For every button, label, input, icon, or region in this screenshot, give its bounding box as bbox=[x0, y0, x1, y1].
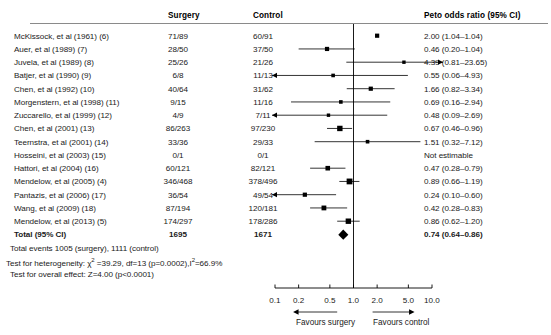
x-axis-tick-label: 10.0 bbox=[424, 296, 440, 305]
study-name: Batjer, et al (1990) (9) bbox=[14, 71, 91, 80]
x-axis-tick-label: 0.5 bbox=[324, 296, 335, 305]
study-row-marker bbox=[299, 47, 355, 51]
heterogeneity-suffix: =66.9% bbox=[195, 259, 222, 268]
study-surgery-count: 60/121 bbox=[152, 164, 204, 173]
study-effect-estimate: 1.66 (0.82–3.34) bbox=[424, 85, 544, 94]
effect-size-square bbox=[325, 166, 330, 171]
study-row-marker bbox=[347, 87, 395, 91]
study-surgery-count: 25/26 bbox=[152, 58, 204, 67]
study-effect-estimate: 0.47 (0.28–0.79) bbox=[424, 164, 544, 173]
study-row-marker bbox=[291, 100, 390, 104]
study-effect-estimate: 0.24 (0.10–0.60) bbox=[424, 191, 544, 200]
study-row-marker bbox=[310, 206, 347, 211]
effect-size-square bbox=[346, 219, 351, 224]
study-name: Chen, et al (1992) (10) bbox=[14, 85, 94, 94]
study-surgery-count: 36/54 bbox=[152, 191, 204, 200]
heterogeneity-prefix: Test for heterogeneity: χ bbox=[6, 259, 91, 268]
axis-caption-favours-control: Favours control bbox=[373, 318, 429, 327]
study-control-count: 97/230 bbox=[237, 124, 289, 133]
effect-size-square bbox=[402, 61, 405, 64]
study-surgery-count: 28/50 bbox=[152, 45, 204, 54]
effect-size-square bbox=[347, 179, 353, 185]
study-row-marker bbox=[272, 73, 408, 78]
effect-size-square bbox=[369, 87, 373, 91]
study-effect-estimate: 0.48 (0.09–2.69) bbox=[424, 111, 544, 120]
x-axis-tick-label: 2.0 bbox=[371, 296, 382, 305]
study-surgery-count: 87/194 bbox=[152, 204, 204, 213]
axis-caption-favours-surgery: Favours surgery bbox=[296, 318, 355, 327]
effect-size-square bbox=[337, 126, 342, 131]
effect-size-square bbox=[325, 47, 329, 51]
study-control-count: 378/496 bbox=[237, 177, 289, 186]
x-axis-tick-label: 0.1 bbox=[269, 296, 280, 305]
column-header-surgery: Surgery bbox=[168, 11, 200, 20]
study-row-marker bbox=[315, 140, 421, 144]
study-effect-estimate: 4.39 (0.81–23.65) bbox=[424, 58, 544, 67]
study-name: Auer, et al (1989) (7) bbox=[14, 45, 87, 54]
heterogeneity-middle: =39.29, df=13 (p=0.0002),I bbox=[95, 259, 192, 268]
arrow-left-icon bbox=[293, 309, 299, 315]
study-surgery-count: 40/64 bbox=[152, 85, 204, 94]
forest-plot-figure: Surgery Control Peto odds ratio (95% CI)… bbox=[0, 0, 551, 335]
study-surgery-count: 0/1 bbox=[152, 151, 204, 160]
study-effect-estimate: 0.42 (0.28–0.83) bbox=[424, 204, 544, 213]
study-effect-estimate: 0.89 (0.66–1.19) bbox=[424, 177, 544, 186]
study-effect-estimate: 0.86 (0.62–1.20) bbox=[424, 217, 544, 226]
effect-size-square bbox=[339, 100, 343, 104]
summary-diamond bbox=[338, 229, 348, 239]
study-row-marker bbox=[310, 166, 345, 171]
study-surgery-count: 9/15 bbox=[152, 98, 204, 107]
study-surgery-count: 346/468 bbox=[152, 177, 204, 186]
effect-size-square bbox=[303, 193, 307, 197]
study-surgery-count: 33/36 bbox=[152, 138, 204, 147]
study-control-count: 37/50 bbox=[237, 45, 289, 54]
study-name: Mendelow, et al (2013) (5) bbox=[14, 217, 107, 226]
header-rule-left bbox=[30, 23, 348, 24]
study-effect-estimate: 2.00 (1.04–1.04) bbox=[424, 32, 544, 41]
effect-size-square bbox=[366, 140, 370, 144]
heterogeneity-test-text: Test for heterogeneity: χ2 =39.29, df=13… bbox=[6, 257, 222, 268]
total-control-count: 1671 bbox=[237, 230, 289, 239]
study-control-count: 7/11 bbox=[237, 111, 289, 120]
study-control-count: 29/33 bbox=[237, 138, 289, 147]
study-surgery-count: 6/8 bbox=[152, 71, 204, 80]
total-label: Total (95% CI) bbox=[14, 230, 66, 239]
study-row-marker bbox=[327, 126, 352, 131]
study-name: Hosseini, et al (2003) (15) bbox=[14, 151, 106, 160]
study-name: Teernstra, et al (2001) (14) bbox=[14, 138, 108, 147]
study-name: Juvela, et al (1989) (8) bbox=[14, 58, 94, 67]
overall-effect-text: Test for overall effect: Z=4.00 (p<0.000… bbox=[10, 270, 154, 279]
study-name: Morgenstern, et al (1998) (11) bbox=[14, 98, 119, 107]
study-name: Pantazis, et al (2006) (17) bbox=[14, 191, 106, 200]
study-effect-estimate: Not estimable bbox=[424, 151, 544, 160]
study-effect-estimate: 0.55 (0.06–4.93) bbox=[424, 71, 544, 80]
study-name: Mendelow, et al (2005) (4) bbox=[14, 177, 107, 186]
x-axis-tick-label: 1.0 bbox=[348, 296, 359, 305]
study-control-count: 31/62 bbox=[237, 85, 289, 94]
header-rule-right bbox=[348, 23, 548, 24]
total-events-text: Total events 1005 (surgery), 1111 (contr… bbox=[10, 244, 159, 253]
study-row-marker bbox=[337, 219, 360, 224]
study-control-count: 21/26 bbox=[237, 58, 289, 67]
column-header-control: Control bbox=[253, 11, 283, 20]
study-control-count: 120/181 bbox=[237, 204, 289, 213]
arrow-right-icon bbox=[409, 309, 415, 315]
study-control-count: 0/1 bbox=[237, 151, 289, 160]
study-surgery-count: 86/263 bbox=[152, 124, 204, 133]
x-axis-tick-label: 0.2 bbox=[293, 296, 304, 305]
study-effect-estimate: 0.67 (0.46–0.96) bbox=[424, 124, 544, 133]
study-control-count: 60/91 bbox=[237, 32, 289, 41]
study-row-marker bbox=[272, 113, 387, 118]
study-name: McKissock, et al (1961) (6) bbox=[14, 32, 109, 41]
study-effect-estimate: 0.69 (0.16–2.94) bbox=[424, 98, 544, 107]
study-surgery-count: 4/9 bbox=[152, 111, 204, 120]
study-row-marker bbox=[339, 179, 359, 185]
total-surgery-count: 1695 bbox=[152, 230, 204, 239]
study-name: Zuccarello, et al (1999) (12) bbox=[14, 111, 112, 120]
effect-size-square bbox=[322, 206, 327, 211]
study-name: Hattori, et al (2004) (16) bbox=[14, 164, 99, 173]
column-header-peto-odds-ratio: Peto odds ratio (95% CI) bbox=[424, 11, 521, 20]
study-control-count: 11/16 bbox=[237, 98, 289, 107]
effect-size-square bbox=[375, 34, 379, 38]
study-control-count: 11/13 bbox=[237, 71, 289, 80]
